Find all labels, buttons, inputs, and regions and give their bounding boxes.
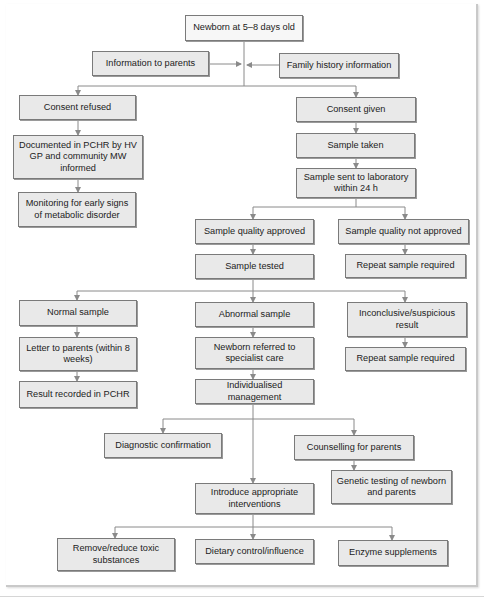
- node-sample-sent: Sample sent to laboratory within 24 h: [296, 168, 416, 198]
- node-family-history: Family history information: [279, 53, 399, 78]
- node-monitoring: Monitoring for early signs of metabolic …: [18, 192, 136, 227]
- node-diagnostic: Diagnostic confirmation: [104, 433, 222, 458]
- node-sample-tested: Sample tested: [195, 254, 314, 279]
- node-sample-taken: Sample taken: [296, 133, 415, 158]
- node-letter-parents: Letter to parents (within 8 weeks): [19, 337, 137, 371]
- node-newborn: Newborn at 5–8 days old: [185, 15, 303, 41]
- node-referred: Newborn referred to specialist care: [195, 337, 314, 369]
- node-consent-refused: Consent refused: [19, 95, 136, 120]
- node-quality-not-approved: Sample quality not approved: [338, 219, 469, 244]
- node-repeat-sample-2: Repeat sample required: [345, 347, 466, 371]
- node-quality-approved: Sample quality approved: [195, 219, 314, 244]
- node-info-parents: Information to parents: [92, 51, 209, 76]
- node-enzyme: Enzyme supplements: [338, 540, 448, 566]
- node-individualised: Individualised management: [195, 379, 314, 404]
- node-interventions: Introduce appropriate interventions: [195, 483, 314, 514]
- node-consent-given: Consent given: [296, 97, 416, 122]
- node-normal-sample: Normal sample: [19, 300, 137, 326]
- node-inconclusive: Inconclusive/suspicious result: [347, 302, 467, 337]
- node-dietary: Dietary control/influence: [195, 539, 314, 564]
- node-result-recorded: Result recorded in PCHR: [19, 381, 137, 408]
- node-documented: Documented in PCHR by HV GP and communit…: [13, 135, 143, 179]
- node-counselling: Counselling for parents: [294, 435, 414, 460]
- node-remove-toxic: Remove/reduce toxic substances: [57, 538, 175, 571]
- node-genetic-testing: Genetic testing of newborn and parents: [331, 470, 452, 504]
- node-abnormal-sample: Abnormal sample: [195, 302, 314, 327]
- node-repeat-sample-1: Repeat sample required: [345, 254, 466, 278]
